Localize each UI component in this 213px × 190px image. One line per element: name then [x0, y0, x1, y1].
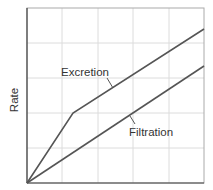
- plot-frame: [27, 8, 204, 183]
- excretion-line: [27, 29, 204, 183]
- grid: [27, 8, 204, 183]
- filtration-line: [27, 66, 204, 183]
- excretion-leader: [107, 78, 113, 88]
- filtration-label: Filtration: [129, 126, 173, 138]
- excretion-label: Excretion: [61, 66, 109, 78]
- y-axis-label: Rate: [8, 88, 20, 112]
- rate-chart: Excretion Filtration Rate: [0, 0, 213, 190]
